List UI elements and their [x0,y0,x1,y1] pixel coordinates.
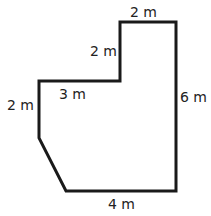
label-left-vertical: 2 m [7,98,34,112]
label-upper-left-vertical: 2 m [90,44,117,58]
label-bottom: 4 m [108,197,135,211]
label-middle-horizontal: 3 m [59,87,86,101]
label-right: 6 m [180,90,207,104]
label-top: 2 m [130,5,157,19]
